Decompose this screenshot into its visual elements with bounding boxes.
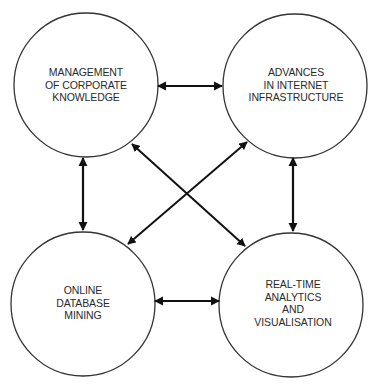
label-line: ADVANCES [236, 66, 356, 79]
diagram-canvas [0, 0, 379, 388]
label-line: DATABASE [23, 297, 143, 310]
label-line: VISUALISATION [233, 316, 353, 329]
node-label-internet: ADVANCES IN INTERNET INFRASTRUCTURE [236, 66, 356, 104]
label-line: AND [233, 303, 353, 316]
label-line: REAL-TIME [233, 278, 353, 291]
label-line: MINING [23, 309, 143, 322]
label-line: IN INTERNET [236, 79, 356, 92]
label-line: OF CORPORATE [26, 79, 146, 92]
label-line: MANAGEMENT [26, 66, 146, 79]
node-label-database: ONLINE DATABASE MINING [23, 284, 143, 322]
label-line: KNOWLEDGE [26, 91, 146, 104]
node-label-management: MANAGEMENT OF CORPORATE KNOWLEDGE [26, 66, 146, 104]
label-line: INFRASTRUCTURE [236, 91, 356, 104]
relationship-diagram: MANAGEMENT OF CORPORATE KNOWLEDGE ADVANC… [0, 0, 379, 388]
node-label-analytics: REAL-TIME ANALYTICS AND VISUALISATION [233, 278, 353, 328]
label-line: ANALYTICS [233, 291, 353, 304]
label-line: ONLINE [23, 284, 143, 297]
